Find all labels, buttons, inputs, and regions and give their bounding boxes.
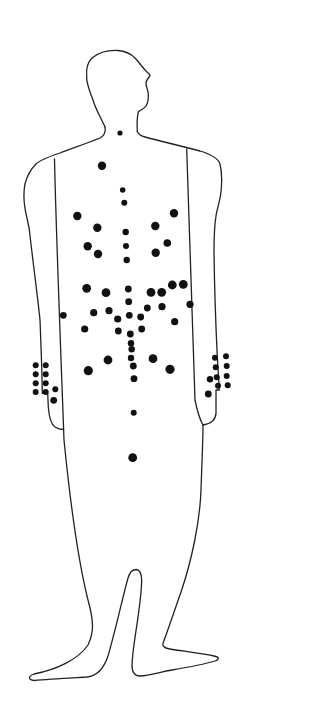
marking-dot [225, 382, 231, 388]
marking-dot [130, 363, 137, 370]
marking-dot [214, 374, 220, 380]
marking-dot [205, 391, 212, 398]
marking-dot [179, 280, 188, 289]
marking-dot [131, 410, 137, 416]
marking-dot [117, 130, 122, 135]
marking-dot [164, 239, 172, 247]
marking-dot [90, 309, 97, 316]
marking-dot [43, 380, 49, 386]
marking-dot [104, 356, 113, 365]
marking-dot [52, 386, 58, 392]
right-inner-arm-outline [187, 149, 203, 425]
marking-dot [33, 371, 39, 377]
marking-dot [213, 364, 219, 370]
marking-dot [121, 200, 127, 206]
marking-dot [93, 224, 101, 232]
marking-dot [73, 212, 81, 220]
marking-dot [43, 389, 49, 395]
marking-dot [212, 355, 218, 361]
marking-dot [43, 362, 49, 368]
marking-dot [224, 373, 230, 379]
marking-dot [123, 229, 129, 235]
marking-dot [144, 305, 151, 312]
marking-dot [170, 209, 178, 217]
marking-dot [94, 250, 102, 258]
marking-dot [128, 355, 134, 361]
marking-dot [158, 303, 165, 310]
marking-dot [84, 242, 92, 250]
marking-dot [129, 346, 135, 352]
marking-dot [131, 375, 138, 382]
human-figure-diagram [0, 0, 314, 715]
marking-dot [149, 354, 158, 363]
marking-dot [138, 326, 145, 333]
marking-dot [165, 365, 174, 374]
marking-dot [215, 383, 221, 389]
marking-dot [81, 325, 88, 332]
marking-dot [125, 298, 132, 305]
marking-dot [147, 288, 156, 297]
marking-dot [168, 281, 177, 290]
marking-dot [224, 363, 230, 369]
marking-dot [114, 315, 121, 322]
marking-dot [105, 307, 112, 314]
marking-dot [120, 187, 126, 193]
marking-dot [171, 318, 178, 325]
marking-dot [151, 222, 159, 230]
marking-dot [82, 284, 91, 293]
marking-dot [123, 243, 129, 249]
head-outline [87, 50, 150, 131]
marking-dot [137, 314, 144, 321]
marking-dot [33, 389, 39, 395]
marking-dot [98, 162, 106, 170]
marking-dot [33, 362, 39, 368]
marking-dot [33, 380, 39, 386]
marking-dot [157, 288, 166, 297]
marking-dot [207, 376, 213, 382]
marking-dot [186, 301, 193, 308]
marking-dot [125, 286, 132, 293]
marking-dot [60, 312, 67, 319]
marking-dot [43, 371, 49, 377]
marking-dot [223, 353, 229, 359]
marking-dot [126, 312, 133, 319]
marking-dot [50, 397, 57, 404]
marking-dot [84, 366, 93, 375]
marking-dot [124, 257, 130, 263]
marking-dot [102, 288, 111, 297]
marking-dot [115, 328, 122, 335]
marking-dot [127, 331, 134, 338]
marking-dot [152, 249, 160, 257]
marking-dot [128, 340, 134, 346]
marking-dot [128, 453, 137, 462]
